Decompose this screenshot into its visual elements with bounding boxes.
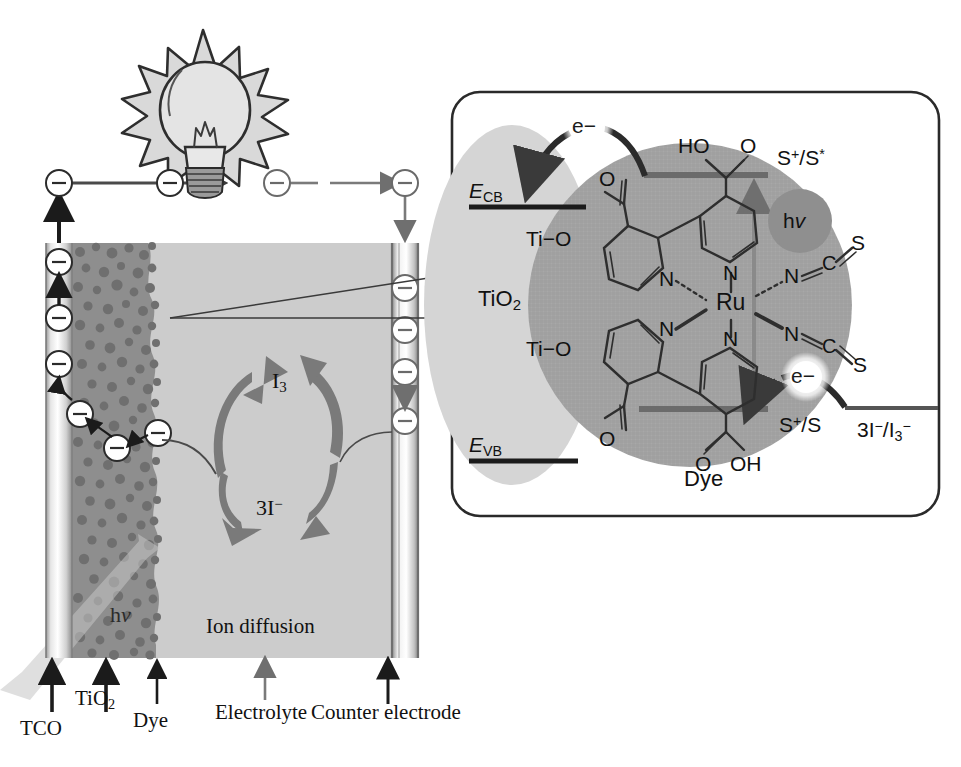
atom-label-n-bottom: N xyxy=(723,328,738,349)
atom-label-n-ncs-lower: N xyxy=(784,323,799,344)
atom-label-o-upper-carboxyl: O xyxy=(599,168,615,189)
tio2-panel-label: TiO2 xyxy=(478,288,521,313)
injected-electron-label: e− xyxy=(572,115,596,136)
anchor-label-ti-o-lower: Ti−O xyxy=(526,338,571,359)
acid-label-oh-bottom: OH xyxy=(730,453,762,474)
light-bulb-icon xyxy=(122,30,288,198)
dssc-figure: Ion diffusion I3 3I− hv TCO TiO2 Dye Ele… xyxy=(0,0,961,767)
atom-label-n-ncs-upper: N xyxy=(784,265,799,286)
iodide-label: 3I− xyxy=(256,497,283,519)
atom-label-ru: Ru xyxy=(716,291,745,314)
counter-electrode xyxy=(392,243,418,658)
diagram-canvas xyxy=(0,0,961,767)
atom-label-o-lower-carboxyl: O xyxy=(599,428,615,449)
acid-label-ho-top: HO xyxy=(678,135,710,156)
external-circuit xyxy=(59,183,405,243)
callout-label-counter-electrode: Counter electrode xyxy=(311,702,461,723)
excited-state-label: S+/S* xyxy=(777,147,825,168)
atom-label-s-upper: S xyxy=(851,232,865,253)
callout-label-dye: Dye xyxy=(133,710,168,731)
callout-label-tco: TCO xyxy=(20,718,62,739)
atom-label-s-lower: S xyxy=(853,354,867,375)
ground-state-label: S+/S xyxy=(779,414,821,435)
incident-light-label: hv xyxy=(110,604,131,626)
ecb-label: ECB xyxy=(469,180,503,205)
triiodide-label: I3 xyxy=(272,370,287,395)
atom-label-c-ncs-lower: C xyxy=(822,336,836,356)
atom-label-o-bottom-double: O xyxy=(695,453,711,474)
atom-label-n-top: N xyxy=(723,262,738,283)
callout-label-tio2: TiO2 xyxy=(75,688,115,712)
regeneration-electron-label: e− xyxy=(791,365,815,386)
anchor-label-ti-o-upper: Ti−O xyxy=(526,228,571,249)
atom-label-n-lower-left: N xyxy=(659,318,674,339)
hv-label: hv xyxy=(783,210,805,231)
atom-label-n-upper-left: N xyxy=(659,268,674,289)
atom-label-c-ncs-upper: C xyxy=(822,253,836,273)
callout-label-electrolyte: Electrolyte xyxy=(215,702,307,723)
ion-diffusion-label: Ion diffusion xyxy=(206,616,315,637)
redox-couple-label: 3I−/I3− xyxy=(857,419,911,444)
atom-label-o-top-double: O xyxy=(740,135,756,156)
evb-label: EVB xyxy=(469,434,502,459)
